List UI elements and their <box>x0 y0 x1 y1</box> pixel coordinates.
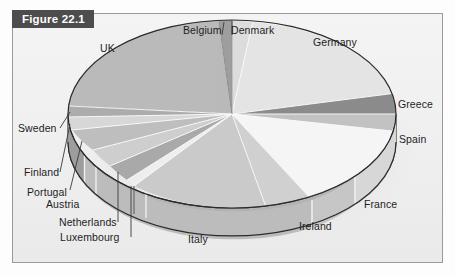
label-italy: Italy <box>188 233 208 245</box>
label-sweden: Sweden <box>18 122 57 134</box>
label-france: France <box>364 198 397 210</box>
label-belgium: Belgium <box>183 24 222 36</box>
label-germany: Germany <box>313 36 357 48</box>
label-ireland: Ireland <box>299 220 332 232</box>
label-finland: Finland <box>24 166 59 178</box>
label-denmark: Denmark <box>231 24 274 36</box>
figure-number-badge: Figure 22.1 <box>12 10 94 28</box>
label-greece: Greece <box>398 98 433 110</box>
figure-stage: Figure 22.1 Belgium Denmark Germany Gree… <box>0 0 455 277</box>
label-uk: UK <box>100 42 115 54</box>
label-spain: Spain <box>399 133 426 145</box>
label-netherlands: Netherlands <box>59 216 117 228</box>
label-austria: Austria <box>46 198 79 210</box>
label-luxembourg: Luxembourg <box>60 231 119 243</box>
label-portugal: Portugal <box>27 186 67 198</box>
